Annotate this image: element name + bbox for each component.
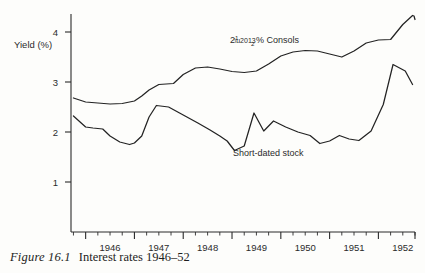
y-axis-title: Yield (%)	[14, 39, 52, 50]
x-axis-major-ticks	[86, 232, 415, 239]
figure-page: 4 3 2 1 Yield (%) 1946194719481949195019…	[0, 0, 425, 273]
series-label-short-dated-stock: Short-dated stock	[233, 148, 304, 158]
interest-rates-line-chart: 4 3 2 1 Yield (%) 1946194719481949195019…	[0, 0, 425, 273]
consols-label-fraction-denominator: 2	[251, 40, 255, 47]
chart-axes	[71, 14, 415, 232]
y-axis-tick-labels: 4 3 2 1	[53, 27, 58, 188]
consols-label-suffix: % Consols	[256, 35, 300, 45]
y-axis-ticks	[65, 32, 71, 182]
y-tick-label-2: 2	[53, 127, 58, 138]
y-tick-label-4: 4	[53, 27, 58, 38]
series-line-consols	[73, 16, 415, 105]
y-tick-label-1: 1	[53, 177, 58, 188]
figure-caption: Figure 16.1Interest rates 1946–52	[10, 250, 410, 265]
series-line-short-dated-stock	[73, 65, 412, 151]
figure-caption-text: Interest rates 1946–52	[79, 250, 190, 264]
figure-caption-label: Figure 16.1	[10, 250, 71, 264]
series-label-consols: 21\u20132% Consols	[230, 34, 299, 48]
y-tick-label-3: 3	[53, 77, 58, 88]
